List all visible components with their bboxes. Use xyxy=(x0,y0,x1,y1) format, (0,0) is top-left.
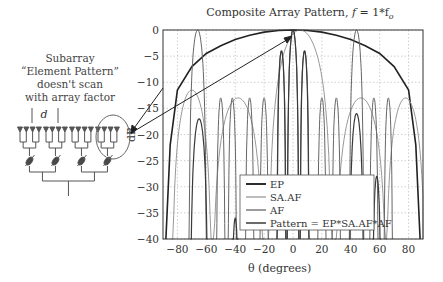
series-lobe xyxy=(232,218,239,239)
antenna-element-icon xyxy=(18,127,23,132)
y-tick-label: −40 xyxy=(137,233,159,245)
y-tick-label: −30 xyxy=(137,181,159,193)
legend-label: AF xyxy=(269,205,284,216)
x-tick-label: −40 xyxy=(224,243,246,255)
subarray-highlight-ellipse xyxy=(96,115,130,159)
spacing-label: d xyxy=(40,108,47,121)
x-tick-label: −80 xyxy=(166,243,188,255)
antenna-element-icon xyxy=(108,127,113,132)
x-tick-label: 60 xyxy=(373,243,386,255)
x-tick-label: −20 xyxy=(253,243,275,255)
y-tick-label: −35 xyxy=(137,207,159,219)
x-tick-label: 80 xyxy=(402,243,415,255)
legend-label: Pattern = EP*SA.AF*AF xyxy=(270,218,392,229)
antenna-element-icon xyxy=(102,127,107,132)
y-tick-label: 0 xyxy=(152,24,159,36)
y-tick-label: −10 xyxy=(137,76,159,88)
antenna-element-icon xyxy=(88,127,93,132)
antenna-element-icon xyxy=(76,127,81,132)
antenna-element-icon xyxy=(24,127,29,132)
antenna-element-icon xyxy=(44,127,49,132)
y-tick-label: −20 xyxy=(137,129,159,141)
antenna-element-icon xyxy=(36,127,41,132)
y-tick-label: −25 xyxy=(137,155,159,167)
series-lobe xyxy=(216,98,225,239)
antenna-element-icon xyxy=(70,127,75,132)
antenna-element-icon xyxy=(50,127,55,132)
x-tick-label: 20 xyxy=(315,243,328,255)
x-tick-label: −60 xyxy=(195,243,217,255)
legend-label: SA.AF xyxy=(270,192,301,203)
antenna-element-icon xyxy=(56,127,61,132)
x-tick-label: 40 xyxy=(344,243,357,255)
legend-label: EP xyxy=(270,179,284,190)
antenna-element-icon xyxy=(30,127,35,132)
y-tick-label: −5 xyxy=(144,50,159,62)
antenna-element-icon xyxy=(114,127,119,132)
chart-canvas: d −80−60−40−200204060800−5−10−15−20−25−3… xyxy=(0,0,443,282)
antenna-element-icon xyxy=(82,127,87,132)
legend: EPSA.AFAFPattern = EP*SA.AF*AF xyxy=(240,175,392,230)
antenna-element-icon xyxy=(62,127,67,132)
array-diagram xyxy=(18,108,131,196)
x-tick-label: 0 xyxy=(290,243,297,255)
